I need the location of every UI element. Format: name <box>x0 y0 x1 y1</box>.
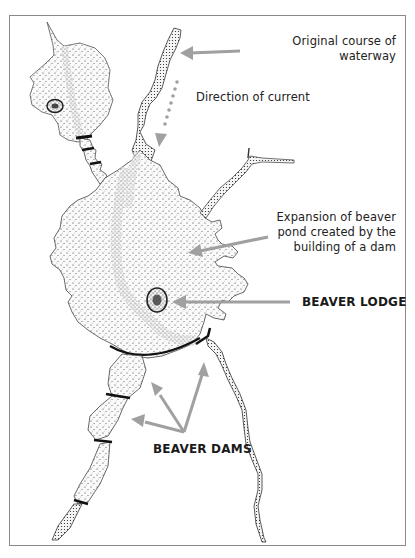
beaver-lodge-label: BEAVER LODGE <box>302 295 407 310</box>
expansion-line-2: pond created by the <box>246 225 396 240</box>
main-pond <box>50 150 248 358</box>
upper-tributary <box>200 148 294 218</box>
upper-pond <box>30 22 113 142</box>
beaver-dams-label: BEAVER DAMS <box>153 442 252 457</box>
original-course-line-2: waterway <box>236 49 396 64</box>
expansion-label: Expansion of beaver pond created by the … <box>246 210 396 255</box>
beaver-lodge-icon <box>147 288 167 312</box>
beaver-pond-illustration <box>0 0 415 558</box>
expansion-line-1: Expansion of beaver <box>246 210 396 225</box>
lower-ponds <box>52 354 146 540</box>
original-course-arrow <box>180 46 240 60</box>
direction-label: Direction of current <box>196 90 310 105</box>
original-course-line-1: Original course of <box>236 34 396 49</box>
outflow-stream <box>206 338 266 542</box>
original-course-label: Original course of waterway <box>236 34 396 64</box>
upper-channel <box>76 136 108 184</box>
expansion-line-3: building of a dam <box>246 240 396 255</box>
